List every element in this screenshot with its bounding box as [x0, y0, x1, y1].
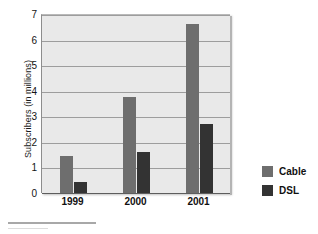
x-axis-tick-label-1999: 1999	[43, 196, 103, 207]
x-axis-tick-label-2001: 2001	[169, 196, 229, 207]
gridline	[42, 15, 230, 16]
chart-legend: CableDSL	[262, 162, 316, 200]
plot-area-shadow	[230, 16, 232, 195]
bar-dsl-1999	[74, 182, 87, 194]
y-axis-tick-label: 3	[9, 111, 37, 122]
bar-cable-1999	[60, 156, 73, 193]
legend-swatch-icon	[262, 166, 273, 177]
legend-item-dsl[interactable]: DSL	[262, 181, 316, 200]
gridline	[42, 193, 230, 194]
legend-label: DSL	[279, 185, 299, 196]
legend-swatch-icon	[262, 185, 273, 196]
bar-cable-2001	[186, 24, 199, 193]
gridline	[42, 66, 230, 67]
gridline	[42, 117, 230, 118]
legend-label: Cable	[279, 166, 306, 177]
bar-cable-2000	[123, 97, 136, 193]
x-axis-tick-label-2000: 2000	[106, 196, 166, 207]
gridline	[42, 92, 230, 93]
bar-dsl-2000	[137, 152, 150, 193]
y-axis-tick-label: 0	[9, 188, 37, 199]
y-axis-tick-labels: 01234567	[4, 14, 37, 193]
legend-item-cable[interactable]: Cable	[262, 162, 316, 181]
y-axis-tick-label: 4	[9, 85, 37, 96]
plot-area	[41, 14, 230, 193]
gridline	[42, 41, 230, 42]
bar-dsl-2001	[200, 124, 213, 193]
footer-rule-secondary	[8, 228, 48, 229]
bar-chart-figure: Subscribers (in millions) 01234567 Cable…	[0, 0, 318, 234]
y-axis-tick-label: 5	[9, 60, 37, 71]
footer-rule	[8, 222, 96, 224]
y-axis-tick-label: 6	[9, 34, 37, 45]
y-axis-tick-label: 1	[9, 162, 37, 173]
y-axis-tick-label: 7	[9, 9, 37, 20]
y-axis-tick-label: 2	[9, 136, 37, 147]
